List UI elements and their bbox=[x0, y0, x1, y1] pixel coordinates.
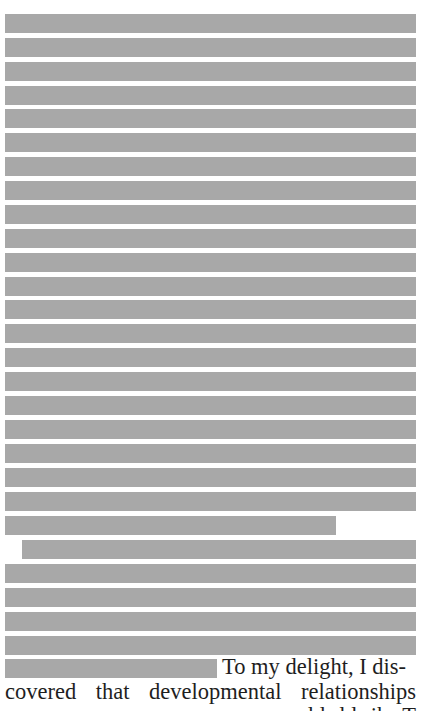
redaction-bar bbox=[5, 612, 416, 631]
redaction-bar bbox=[5, 659, 217, 678]
redaction-bar bbox=[5, 324, 416, 343]
redaction-bar bbox=[5, 86, 416, 105]
redaction-bar bbox=[5, 564, 416, 583]
redaction-bar bbox=[22, 540, 416, 559]
redaction-bar bbox=[5, 205, 416, 224]
redaction-bar bbox=[5, 62, 416, 81]
word: that bbox=[96, 680, 130, 704]
paragraph-text-fragment: To my delight, I dis- bbox=[222, 655, 406, 679]
redaction-bar bbox=[5, 109, 416, 128]
redaction-bar bbox=[5, 636, 416, 655]
word: developmental bbox=[149, 680, 281, 704]
redaction-bar bbox=[5, 348, 416, 367]
word: covered bbox=[5, 680, 76, 704]
redaction-bar bbox=[5, 300, 416, 319]
redaction-bar bbox=[5, 588, 416, 607]
redaction-bar bbox=[5, 181, 416, 200]
redaction-bar bbox=[5, 444, 416, 463]
redaction-bar bbox=[5, 396, 416, 415]
redaction-bar bbox=[5, 38, 416, 57]
redaction-bar bbox=[5, 229, 416, 248]
redaction-bar bbox=[5, 14, 416, 33]
paragraph-text-line: covered that developmental relationships bbox=[5, 680, 416, 704]
redaction-bar bbox=[5, 253, 416, 272]
redaction-bar bbox=[5, 468, 416, 487]
cut-off-text-line: x ldldihT bbox=[0, 704, 422, 711]
document-page: To my delight, I dis- covered that devel… bbox=[0, 0, 422, 711]
redaction-bar bbox=[5, 372, 416, 391]
redaction-bar bbox=[5, 420, 416, 439]
redaction-bar bbox=[5, 492, 416, 511]
word: relationships bbox=[301, 680, 416, 704]
redaction-bar bbox=[5, 133, 416, 152]
redaction-bar bbox=[5, 277, 416, 296]
redaction-bar bbox=[5, 516, 336, 535]
redaction-bar bbox=[5, 157, 416, 176]
